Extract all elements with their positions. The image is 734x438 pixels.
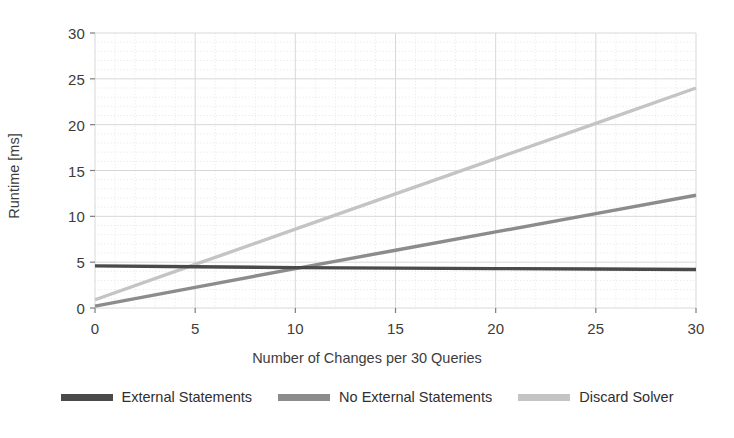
legend-label: No External Statements [339,389,492,405]
y-axis-tick-label: 25 [49,70,85,87]
legend-item[interactable]: No External Statements [278,389,492,405]
line-swatch-discard-solver [518,394,570,401]
x-axis-tick-label: 15 [387,320,404,337]
x-axis-tick-label: 5 [191,320,200,337]
y-axis-tick-label: 30 [49,25,85,42]
y-axis-tick-label: 0 [49,300,85,317]
chart-legend: External StatementsNo External Statement… [0,389,734,405]
x-axis-tick-label: 10 [287,320,304,337]
line-swatch-external-statements [61,394,113,401]
legend-item[interactable]: External Statements [61,389,253,405]
y-axis-tick-label: 10 [49,208,85,225]
y-axis-tick-label: 5 [49,254,85,271]
y-axis-label: Runtime [ms] [6,133,22,218]
y-axis-tick-label: 20 [49,116,85,133]
x-axis-label: Number of Changes per 30 Queries [0,350,734,366]
y-axis-tick-label: 15 [49,162,85,179]
legend-label: External Statements [122,389,253,405]
x-axis-tick-label: 30 [687,320,704,337]
plot-canvas [0,0,734,438]
chart-figure: 051015202530 051015202530 Runtime [ms] N… [0,0,734,438]
x-axis-tick-label: 25 [587,320,604,337]
x-axis-tick-label: 0 [91,320,100,337]
x-axis-tick-label: 20 [487,320,504,337]
legend-label: Discard Solver [579,389,673,405]
line-swatch-no-external-statements [278,394,330,401]
legend-item[interactable]: Discard Solver [518,389,673,405]
